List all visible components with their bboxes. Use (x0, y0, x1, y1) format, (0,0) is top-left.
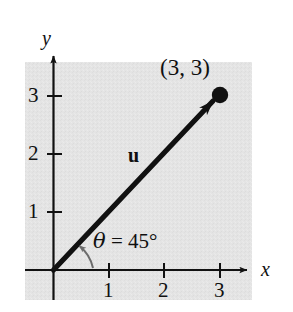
x-tick-label-3: 3 (214, 280, 225, 301)
angle-equals-sign: = (106, 229, 128, 253)
y-tick-label-2: 2 (28, 143, 39, 164)
vector-diagram-figure: y x 3 2 1 1 2 3 (3, 3) u θ = 45° (0, 0, 293, 312)
x-axis-label: x (261, 259, 270, 279)
theta-symbol: θ (93, 229, 106, 253)
vector-label-u: u (128, 145, 139, 165)
y-tick-label-3: 3 (28, 85, 39, 106)
y-axis-label: y (42, 28, 51, 48)
terminal-point-marker (212, 87, 228, 103)
angle-label: θ = 45° (93, 231, 157, 252)
terminal-point-label: (3, 3) (160, 56, 210, 79)
angle-value: 45° (128, 229, 157, 253)
x-tick-label-2: 2 (158, 280, 169, 301)
x-tick-label-1: 1 (103, 280, 114, 301)
y-tick-label-1: 1 (28, 201, 39, 222)
